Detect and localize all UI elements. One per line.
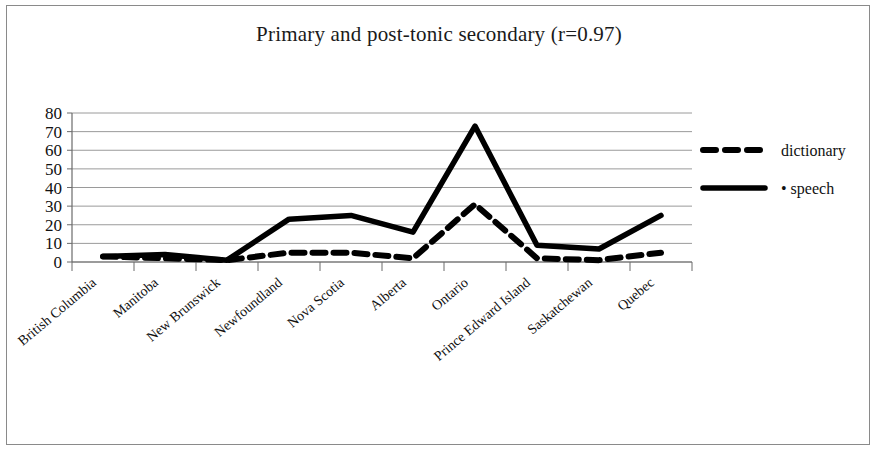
x-tick-label: Saskatchewan <box>525 275 595 337</box>
y-tick-label: 30 <box>45 197 62 216</box>
x-tick-label: Alberta <box>367 274 409 313</box>
chart-legend: dictionary• speech <box>703 142 846 198</box>
x-tick-label: Newfoundland <box>212 275 285 340</box>
data-series <box>103 126 661 260</box>
legend-label-1: • speech <box>781 180 834 198</box>
y-tick-label: 40 <box>45 179 62 198</box>
legend-label-0: dictionary <box>781 142 846 160</box>
x-tick-label: Ontario <box>429 275 471 314</box>
y-tick-label: 60 <box>45 141 62 160</box>
x-tick-label: Manitoba <box>110 274 161 320</box>
x-axis <box>72 262 692 271</box>
line-chart-plot: 80706050403020100 British ColumbiaManito… <box>0 0 878 452</box>
x-tick-label: Quebec <box>615 275 657 314</box>
y-axis <box>67 113 72 262</box>
y-tick-label: 10 <box>45 234 62 253</box>
series-line-speech <box>103 126 661 260</box>
series-line-dictionary <box>103 204 661 260</box>
y-tick-labels: 80706050403020100 <box>45 104 62 272</box>
x-tick-labels: British ColumbiaManitobaNew BrunswickNew… <box>15 274 657 363</box>
gridlines <box>72 113 692 262</box>
x-tick-label: Nova Scotia <box>285 274 348 330</box>
y-tick-label: 70 <box>45 123 62 142</box>
y-tick-label: 50 <box>45 160 62 179</box>
y-tick-label: 20 <box>45 216 62 235</box>
x-tick-label: British Columbia <box>15 274 99 348</box>
y-tick-label: 80 <box>45 104 62 123</box>
chart-page: Primary and post-tonic secondary (r=0.97… <box>0 0 878 452</box>
y-tick-label: 0 <box>54 253 63 272</box>
